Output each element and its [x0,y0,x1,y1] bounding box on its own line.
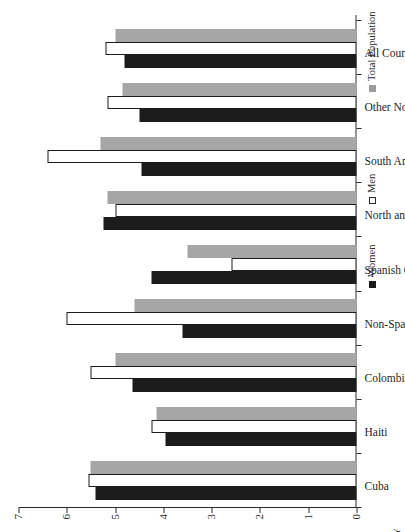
value-tick [308,508,309,513]
bar-total [122,83,356,96]
category-label: Colombia [364,373,405,385]
bar-total [107,191,356,204]
bar-group [18,129,356,183]
bar-group [18,183,356,237]
value-tick [18,508,19,513]
category-label: Haiti [364,427,387,439]
women-swatch [369,281,376,288]
legend-item-men: Men [367,174,378,204]
bar-women [124,55,356,68]
bar-women [139,109,356,122]
bar-men [88,474,356,487]
source-text: ITMI Quantitative Survey [391,528,403,532]
value-tick-label: 0 [351,514,362,532]
bar-men [47,150,356,163]
bar-total [90,461,356,474]
value-tick-label: 7 [13,514,24,532]
bar-women [95,487,356,500]
legend-label-total-population: Total Population [367,11,378,81]
value-tick [259,508,260,513]
bar-men [90,366,356,379]
category-label: Cuba [364,481,388,493]
bar-men [105,42,356,55]
bar-total [187,245,356,258]
bar-group [18,237,356,291]
bar-total [134,299,356,312]
legend-item-total-population: Total Population [367,11,378,92]
value-tick [356,508,357,513]
bar-women [182,325,356,338]
bar-group [18,346,356,400]
bar-group [18,292,356,346]
bar-men [151,420,356,433]
bar-men [231,258,357,271]
bar-groups [18,21,356,508]
value-tick-label: 2 [254,514,265,532]
bar-group [18,400,356,454]
bar-women [141,163,356,176]
value-tick [163,508,164,513]
category-label-cell: Cuba [360,454,405,508]
bar-total [115,353,356,366]
value-tick-label: 6 [61,514,72,532]
bar-women [103,217,357,230]
rotated-chart-canvas: 01234567 CubaHaitiColombiaNon-Spanish Ca… [0,0,405,532]
category-label-cell: Haiti [360,400,405,454]
value-tick-label: 1 [302,514,313,532]
bar-women [165,433,356,446]
value-tick-label: 4 [157,514,168,532]
value-tick [66,508,67,513]
chart-figure: 01234567 CubaHaitiColombiaNon-Spanish Ca… [0,0,405,532]
value-tick-label: 5 [109,514,120,532]
plot-area: 01234567 [18,21,356,508]
bar-women [132,379,357,392]
legend-label-women: Women [367,245,378,277]
bar-men [115,204,356,217]
value-tick [115,508,116,513]
source-note: Source: ITMI Quantitative Survey [392,528,404,532]
men-swatch [369,197,376,204]
bar-total [156,407,356,420]
value-tick [211,508,212,513]
bar-total [100,137,356,150]
bar-women [151,271,356,284]
bar-total [115,29,356,42]
chart-legend: Total Population Men Women [367,92,401,360]
legend-label-men: Men [367,174,378,193]
bar-group [18,454,356,508]
bar-men [107,96,356,109]
value-tick-label: 3 [206,514,217,532]
bar-group [18,75,356,129]
total-population-swatch [369,85,376,92]
bar-men [66,312,356,325]
legend-item-women: Women [367,245,378,288]
bar-group [18,21,356,75]
